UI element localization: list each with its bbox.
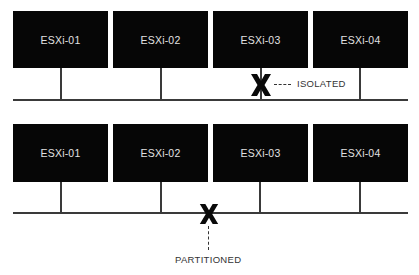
partitioned-label: PARTITIONED	[175, 254, 241, 265]
host-esxi-01-top: ESXi-01	[13, 11, 108, 68]
partitioned-leader-line	[208, 226, 209, 250]
uplink-esxi-02-top	[160, 68, 162, 99]
uplink-esxi-01-bottom	[60, 182, 62, 212]
host-label: ESXi-02	[141, 147, 181, 159]
host-label: ESXi-04	[341, 34, 381, 46]
host-esxi-01-bottom: ESXi-01	[13, 124, 108, 182]
host-label: ESXi-02	[141, 34, 181, 46]
x-mark-icon	[198, 203, 220, 225]
host-label: ESXi-01	[41, 34, 81, 46]
x-mark-icon	[249, 73, 273, 97]
isolated-label: ISOLATED	[297, 78, 346, 89]
host-label: ESXi-03	[241, 147, 281, 159]
uplink-esxi-02-bottom	[160, 182, 162, 212]
uplink-esxi-04-top	[359, 68, 361, 99]
host-esxi-02-bottom: ESXi-02	[113, 124, 208, 182]
uplink-esxi-04-bottom	[359, 182, 361, 212]
network-bus-top	[13, 99, 408, 101]
host-esxi-03-top: ESXi-03	[213, 11, 308, 68]
host-esxi-03-bottom: ESXi-03	[213, 124, 308, 182]
host-label: ESXi-04	[341, 147, 381, 159]
host-esxi-04-bottom: ESXi-04	[313, 124, 408, 182]
isolated-leader-line	[274, 84, 291, 85]
host-label: ESXi-03	[241, 34, 281, 46]
host-esxi-04-top: ESXi-04	[313, 11, 408, 68]
host-label: ESXi-01	[41, 147, 81, 159]
host-esxi-02-top: ESXi-02	[113, 11, 208, 68]
uplink-esxi-01-top	[60, 68, 62, 99]
uplink-esxi-03-bottom	[259, 182, 261, 212]
